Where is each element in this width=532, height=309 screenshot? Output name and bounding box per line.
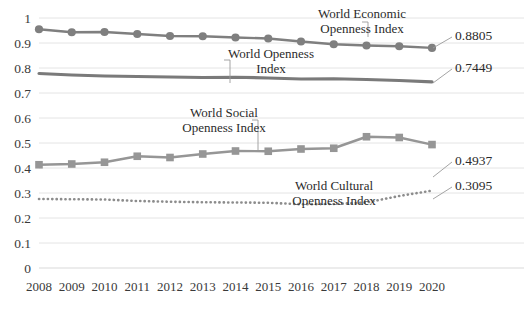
end-value-world-cultural-openness-index: 0.3095 <box>455 178 492 193</box>
annotation-cultural-line1: World Cultural <box>295 178 373 193</box>
data-point-2015 <box>264 34 272 42</box>
x-axis-label-2014: 2014 <box>223 279 250 294</box>
x-axis-label-2009: 2009 <box>59 279 85 294</box>
data-point-2009 <box>68 28 76 36</box>
chart-svg: 00.10.20.30.40.50.60.70.80.91 2008200920… <box>0 0 532 309</box>
data-point-2013 <box>199 32 207 40</box>
x-axis-tick-labels: 2008200920102011201220132014201520162017… <box>26 279 445 294</box>
x-axis-label-2015: 2015 <box>255 279 281 294</box>
y-axis-label-0.7: 0.7 <box>14 86 31 101</box>
x-axis-label-2013: 2013 <box>190 279 216 294</box>
series-line <box>39 74 432 82</box>
data-point-2017 <box>330 144 338 152</box>
data-point-2014 <box>231 33 239 41</box>
x-axis-label-2008: 2008 <box>26 279 52 294</box>
y-axis-label-0.9: 0.9 <box>14 36 31 51</box>
data-point-2015 <box>264 147 272 155</box>
data-point-2016 <box>297 37 305 45</box>
data-point-2009 <box>68 160 76 168</box>
annotation-social-line2: Openness Index <box>182 120 266 135</box>
data-point-2018 <box>362 41 370 49</box>
end-leader-1 <box>433 69 452 83</box>
y-axis-label-0.2: 0.2 <box>14 211 31 226</box>
data-point-2010 <box>101 158 109 166</box>
end-leader-2 <box>433 162 452 177</box>
y-axis-label-0.1: 0.1 <box>14 236 31 251</box>
y-axis-label-0.8: 0.8 <box>14 61 31 76</box>
end-value-world-openness-index: 0.7449 <box>455 60 492 75</box>
y-axis-label-0.6: 0.6 <box>14 111 31 126</box>
end-value-world-social-openness-index: 0.4937 <box>455 153 492 168</box>
data-point-2011 <box>133 30 141 38</box>
data-point-2014 <box>232 147 240 155</box>
data-point-2017 <box>330 40 338 48</box>
annotation-cultural-line2: Openness Index <box>292 193 376 208</box>
x-axis-label-2016: 2016 <box>288 279 315 294</box>
annotation-openness-line2: Index <box>256 61 286 76</box>
end-value-world-economic-openness-index: 0.8805 <box>455 28 492 43</box>
x-axis-label-2018: 2018 <box>354 279 380 294</box>
x-axis-label-2020: 2020 <box>419 279 445 294</box>
annotation-economic-line1: World Economic <box>318 6 406 21</box>
x-axis-label-2017: 2017 <box>321 279 348 294</box>
series-world-openness-index <box>39 74 432 82</box>
data-point-2012 <box>166 32 174 40</box>
x-axis-label-2011: 2011 <box>124 279 150 294</box>
data-point-2010 <box>100 28 108 36</box>
data-point-2012 <box>166 154 174 162</box>
data-point-2019 <box>395 42 403 50</box>
annotation-leader-openness <box>224 60 230 83</box>
x-axis-label-2012: 2012 <box>157 279 183 294</box>
y-axis-label-0.5: 0.5 <box>14 136 31 151</box>
data-point-2013 <box>199 150 207 158</box>
x-axis-label-2019: 2019 <box>386 279 412 294</box>
x-axis-label-2010: 2010 <box>92 279 118 294</box>
data-point-2011 <box>133 152 141 160</box>
y-axis-label-0: 0 <box>24 261 31 276</box>
data-point-2018 <box>363 133 371 141</box>
data-point-2008 <box>35 25 43 33</box>
series-world-social-openness-index <box>35 133 436 169</box>
annotation-social-line1: World Social <box>190 105 258 120</box>
data-point-2008 <box>35 161 43 169</box>
y-axis-label-0.4: 0.4 <box>14 161 31 176</box>
annotation-openness-line1: World Openness <box>228 46 314 61</box>
y-axis-label-1: 1 <box>24 11 31 26</box>
data-point-2016 <box>297 145 305 153</box>
y-axis-label-0.3: 0.3 <box>14 186 31 201</box>
data-point-2020 <box>428 44 436 52</box>
annotation-economic-line2: Openness Index <box>320 21 404 36</box>
line-chart-world-openness-index: 00.10.20.30.40.50.60.70.80.91 2008200920… <box>0 0 532 309</box>
data-point-2020 <box>428 141 436 149</box>
data-point-2019 <box>395 134 403 142</box>
y-axis-tick-labels: 00.10.20.30.40.50.60.70.80.91 <box>14 11 31 276</box>
